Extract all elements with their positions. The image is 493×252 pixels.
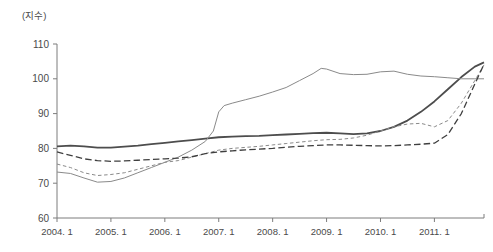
x-tick-label: 2005. 1 (95, 226, 127, 237)
x-axis-ticks: 2004. 12005. 12006. 12007. 12008. 12009.… (41, 218, 450, 237)
x-tick-label: 2006. 1 (149, 226, 181, 237)
x-tick-label: 2011. 1 (419, 226, 450, 237)
axis-lines (57, 44, 484, 218)
x-tick-label: 2009. 1 (311, 226, 343, 237)
y-tick-label: 60 (38, 213, 50, 224)
series-thin-solid (57, 68, 484, 182)
x-tick-label: 2004. 1 (41, 226, 73, 237)
y-tick-label: 80 (38, 143, 50, 154)
chart-container: (지수) 60708090100110 2004. 12005. 12006. … (0, 0, 493, 252)
line-chart-plot: 60708090100110 2004. 12005. 12006. 12007… (0, 0, 493, 252)
y-tick-label: 90 (38, 108, 50, 119)
series-short-dash (57, 65, 484, 176)
y-axis-ticks: 60708090100110 (32, 39, 57, 224)
series-thick-solid (57, 62, 484, 147)
x-tick-label: 2008. 1 (257, 226, 289, 237)
y-tick-label: 100 (32, 73, 49, 84)
y-tick-label: 110 (33, 39, 49, 50)
series-lines (57, 62, 484, 182)
x-tick-label: 2010. 1 (365, 226, 397, 237)
y-tick-label: 70 (38, 178, 50, 189)
x-tick-label: 2007. 1 (203, 226, 235, 237)
